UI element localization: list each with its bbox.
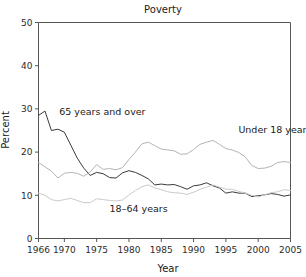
series-line-3 xyxy=(39,185,291,203)
x-tick-label: 1990 xyxy=(182,245,205,255)
y-tick-label: 20 xyxy=(21,147,33,157)
x-tick-label: 1980 xyxy=(118,245,141,255)
x-tick-label: 1975 xyxy=(85,245,108,255)
y-axis-title: Percent xyxy=(0,111,11,149)
x-axis-ticks: 196619701975198019851990199520002005 xyxy=(27,239,302,255)
y-axis-ticks: 01020304050 xyxy=(21,18,38,244)
series-label-3: 18–64 years xyxy=(110,203,168,214)
y-tick-label: 30 xyxy=(21,104,33,114)
x-tick-label: 1985 xyxy=(150,245,173,255)
y-tick-label: 40 xyxy=(21,61,33,71)
x-axis-title: Year xyxy=(156,263,179,274)
series-annotations: 65 years and overUnder 18 years18–64 yea… xyxy=(59,106,306,214)
y-tick-label: 10 xyxy=(21,191,33,201)
chart-canvas: Poverty 01020304050 19661970197519801985… xyxy=(0,0,306,277)
y-tick-label: 50 xyxy=(21,18,33,28)
x-tick-label: 1995 xyxy=(214,245,237,255)
x-tick-label: 1970 xyxy=(53,245,76,255)
series-line-2 xyxy=(39,140,291,178)
x-tick-label: 2005 xyxy=(279,245,302,255)
y-tick-label: 0 xyxy=(27,234,33,244)
x-tick-label: 1966 xyxy=(27,245,50,255)
series-label-1: 65 years and over xyxy=(59,106,145,117)
x-tick-label: 2000 xyxy=(247,245,270,255)
poverty-chart-figure: Poverty 01020304050 19661970197519801985… xyxy=(0,0,306,277)
chart-title: Poverty xyxy=(144,4,182,15)
series-label-2: Under 18 years xyxy=(238,124,306,135)
